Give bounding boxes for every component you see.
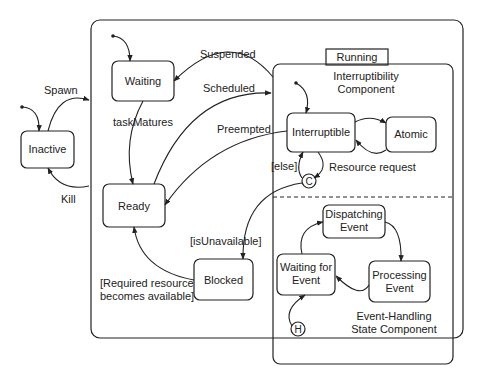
label-else: [else] [271, 160, 297, 172]
svg-text:Interruptible: Interruptible [292, 126, 350, 138]
edge-else [299, 152, 303, 178]
edge-spawn [48, 98, 89, 131]
state-waiting[interactable]: Waiting [112, 61, 174, 101]
interruptibility-label-2: Component [338, 83, 395, 95]
edge-preempted [165, 131, 287, 205]
svg-text:Blocked: Blocked [204, 274, 243, 286]
event-handling-label-2: State Component [351, 323, 437, 335]
choice-pseudostate[interactable]: C [302, 174, 316, 188]
state-interruptible[interactable]: Interruptible [287, 113, 355, 152]
interruptibility-label-1: Interruptibility [333, 70, 399, 82]
state-blocked[interactable]: Blocked [194, 259, 253, 300]
label-suspended: Suspended [200, 48, 256, 60]
label-preempted: Preempted [217, 123, 271, 135]
svg-text:Waiting: Waiting [125, 75, 161, 87]
edge-history-to-wait [289, 295, 305, 326]
svg-text:Event: Event [385, 282, 413, 294]
svg-text:Ready: Ready [118, 200, 150, 212]
label-spawn: Spawn [44, 84, 78, 96]
svg-text:Event: Event [292, 274, 320, 286]
state-processing-event[interactable]: Processing Event [369, 261, 430, 302]
label-kill: Kill [61, 193, 76, 205]
edge-process-to-wait [336, 276, 369, 291]
edge-from-atomic [356, 140, 386, 153]
state-diagram: Running Interruptibility Component Event… [0, 0, 477, 371]
svg-text:Event: Event [340, 221, 368, 233]
label-resource-available-1: [Required resource [100, 277, 194, 289]
running-label: Running [337, 51, 378, 63]
svg-text:Atomic: Atomic [394, 128, 428, 140]
label-resource-available-2: becomes available] [100, 290, 194, 302]
edge-dispatch-to-process [385, 222, 401, 261]
state-inactive[interactable]: Inactive [21, 131, 74, 168]
edge-kill [48, 168, 89, 187]
svg-text:Waiting for: Waiting for [280, 261, 333, 273]
state-atomic[interactable]: Atomic [386, 117, 436, 152]
svg-text:Dispatching: Dispatching [325, 208, 382, 220]
state-ready[interactable]: Ready [103, 184, 165, 227]
label-resource-request: Resource request [329, 161, 416, 173]
svg-text:C: C [305, 176, 312, 187]
initial-waiting [111, 34, 130, 61]
event-handling-label-1: Event-Handling [356, 310, 431, 322]
initial-inactive [20, 105, 39, 131]
svg-text:Processing: Processing [372, 269, 426, 281]
label-is-unavailable: [isUnavailable] [190, 235, 262, 247]
label-task-matures: taskMatures [113, 116, 173, 128]
svg-text:Inactive: Inactive [29, 143, 67, 155]
initial-interruptible [294, 81, 307, 113]
state-dispatching-event[interactable]: Dispatching Event [323, 205, 385, 238]
state-waiting-for-event[interactable]: Waiting for Event [277, 254, 335, 295]
edge-resource-available [134, 227, 194, 280]
history-pseudostate[interactable]: H [291, 322, 305, 336]
edge-to-atomic [355, 118, 386, 123]
svg-text:H: H [294, 324, 301, 335]
edge-resource-request [314, 152, 323, 178]
edge-task-matures [129, 101, 143, 184]
label-scheduled: Scheduled [203, 82, 255, 94]
edge-wait-to-dispatch [301, 222, 323, 254]
